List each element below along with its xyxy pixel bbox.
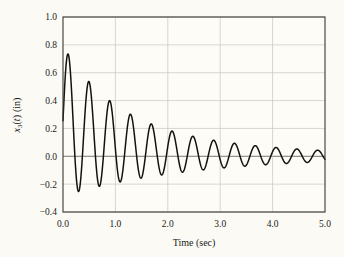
y-tick-label: 0.2: [45, 124, 57, 134]
plot-area-background: [63, 17, 325, 212]
x-tick-label: 2.0: [162, 219, 174, 229]
x-axis-title: Time (sec): [173, 237, 216, 249]
x-tick-label: 3.0: [214, 219, 226, 229]
x-tick-label: 1.0: [109, 219, 121, 229]
x-tick-label: 4.0: [267, 219, 279, 229]
x-tick-label: 0.0: [57, 219, 69, 229]
damped-vibration-chart: 1.00.80.60.40.20.0−0.2−0.4 0.01.02.03.04…: [0, 0, 344, 257]
y-tick-label: 0.0: [45, 152, 57, 162]
x-tick-label: 5.0: [319, 219, 331, 229]
y-tick-label: 0.8: [45, 40, 57, 50]
y-tick-label: 1.0: [45, 12, 57, 22]
y-tick-label: 0.6: [45, 68, 57, 78]
y-tick-label: −0.2: [40, 180, 57, 190]
y-tick-label: −0.4: [40, 207, 57, 217]
y-tick-label: 0.4: [45, 96, 57, 106]
